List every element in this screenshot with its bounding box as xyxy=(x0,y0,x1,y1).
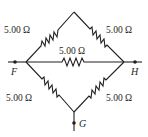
circuit-diagram: 5.00 Ω 5.00 Ω 5.00 Ω 5.00 Ω 5.00 Ω F H G xyxy=(0,0,148,137)
node-label-H: H xyxy=(130,66,139,77)
resistor-bottom-right xyxy=(74,62,124,112)
label-top-right: 5.00 Ω xyxy=(106,25,132,35)
resistor-middle xyxy=(26,58,124,66)
node-label-G: G xyxy=(79,118,86,129)
label-bottom-right: 5.00 Ω xyxy=(106,93,132,103)
label-top-left: 5.00 Ω xyxy=(4,25,30,35)
node-F-dot xyxy=(13,60,17,64)
circuit-svg: 5.00 Ω 5.00 Ω 5.00 Ω 5.00 Ω 5.00 Ω F H G xyxy=(0,0,148,137)
label-bottom-left: 5.00 Ω xyxy=(6,93,32,103)
resistor-bottom-left xyxy=(26,62,74,112)
node-G-dot xyxy=(72,121,76,125)
label-middle: 5.00 Ω xyxy=(59,46,85,56)
node-H-dot xyxy=(133,60,137,64)
node-label-F: F xyxy=(10,66,18,77)
